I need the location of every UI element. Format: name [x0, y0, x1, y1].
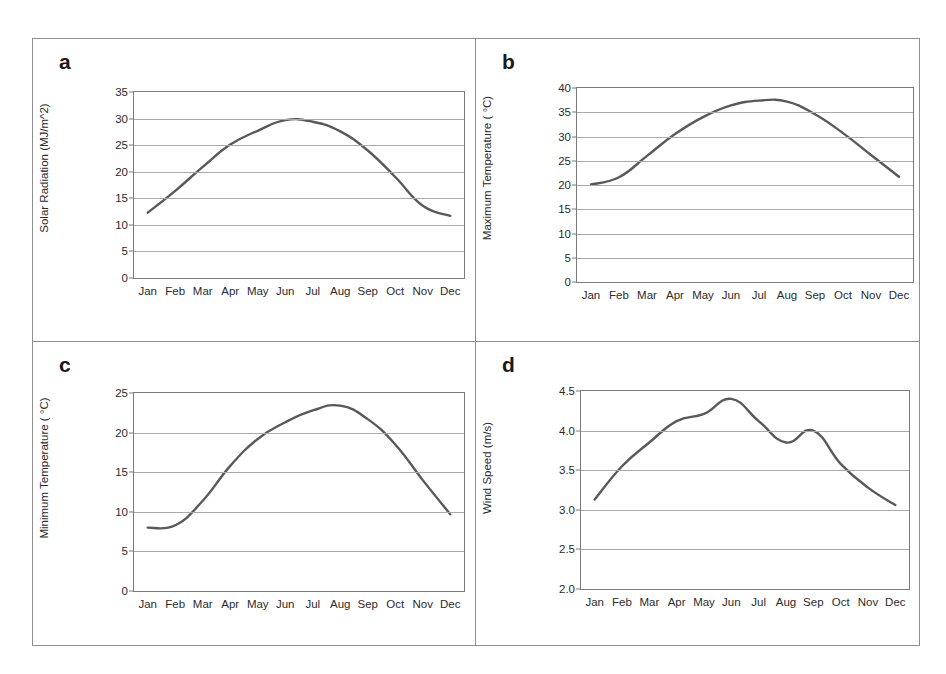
x-tick-label: Jul	[751, 596, 766, 608]
y-tick-label: 15	[115, 192, 128, 204]
y-tick-label: 5	[565, 252, 571, 264]
gridline	[581, 470, 909, 471]
plot-area-a: 05101520253035JanFebMarAprMayJunJulAugSe…	[133, 91, 465, 279]
y-tick-label: 25	[115, 387, 128, 399]
y-tick-label: 4.0	[559, 425, 575, 437]
y-tick-mark	[576, 391, 581, 392]
series-line-a	[134, 92, 464, 278]
y-tick-label: 2.5	[559, 543, 575, 555]
x-tick-label: Oct	[386, 598, 404, 610]
gridline	[134, 198, 464, 199]
x-tick-label: Dec	[889, 289, 909, 301]
y-tick-mark	[572, 88, 577, 89]
x-tick-label: Nov	[858, 596, 878, 608]
series-path-c	[148, 405, 450, 528]
y-tick-label: 5	[122, 545, 128, 557]
panel-a: a Solar Radiation (MJ/m^2) 0510152025303…	[33, 39, 476, 342]
y-tick-mark	[129, 251, 134, 252]
y-tick-mark	[572, 185, 577, 186]
x-tick-label: May	[692, 289, 714, 301]
gridline	[577, 258, 913, 259]
y-tick-label: 10	[115, 219, 128, 231]
x-tick-label: Apr	[666, 289, 684, 301]
x-tick-label: Mar	[193, 598, 213, 610]
y-tick-label: 4.5	[559, 385, 575, 397]
x-tick-label: Feb	[609, 289, 629, 301]
y-tick-label: 35	[115, 86, 128, 98]
y-tick-label: 0	[122, 585, 128, 597]
y-tick-mark	[572, 282, 577, 283]
y-tick-label: 25	[558, 155, 571, 167]
chart-c: Minimum Temperature ( °C) 0510152025JanF…	[33, 342, 475, 645]
y-tick-mark	[572, 209, 577, 210]
y-tick-label: 3.5	[559, 464, 575, 476]
y-tick-mark	[129, 118, 134, 119]
y-tick-label: 30	[115, 113, 128, 125]
figure-frame: a Solar Radiation (MJ/m^2) 0510152025303…	[32, 38, 920, 646]
y-tick-mark	[129, 591, 134, 592]
plot-area-d: 2.02.53.03.54.04.5JanFebMarAprMayJunJulA…	[580, 390, 910, 590]
x-tick-label: Dec	[440, 285, 460, 297]
gridline	[577, 185, 913, 186]
x-tick-label: Nov	[413, 598, 433, 610]
x-tick-label: Jun	[276, 285, 295, 297]
y-tick-label: 2.0	[559, 583, 575, 595]
y-tick-mark	[572, 257, 577, 258]
plot-area-b: 0510152025303540JanFebMarAprMayJunJulAug…	[576, 87, 914, 283]
x-tick-label: Aug	[777, 289, 797, 301]
gridline	[134, 172, 464, 173]
y-tick-label: 10	[558, 228, 571, 240]
x-tick-label: Sep	[358, 285, 378, 297]
x-tick-label: Dec	[885, 596, 905, 608]
gridline	[134, 472, 464, 473]
y-tick-mark	[572, 136, 577, 137]
x-tick-label: Oct	[386, 285, 404, 297]
series-path-a	[148, 119, 450, 216]
panel-c: c Minimum Temperature ( °C) 0510152025Ja…	[33, 342, 476, 645]
x-tick-label: Apr	[668, 596, 686, 608]
x-tick-label: Jun	[276, 598, 295, 610]
chart-a: Solar Radiation (MJ/m^2) 05101520253035J…	[33, 39, 475, 341]
gridline	[581, 510, 909, 511]
gridline	[577, 234, 913, 235]
x-tick-label: Nov	[413, 285, 433, 297]
gridline	[134, 512, 464, 513]
y-tick-label: 15	[558, 203, 571, 215]
panel-d: d Wind Speed (m/s) 2.02.53.03.54.04.5Jan…	[476, 342, 919, 645]
y-tick-mark	[129, 278, 134, 279]
y-tick-label: 25	[115, 139, 128, 151]
y-tick-label: 3.0	[559, 504, 575, 516]
x-tick-label: Jun	[722, 596, 741, 608]
x-tick-label: Feb	[165, 285, 185, 297]
x-tick-label: Jan	[138, 285, 157, 297]
x-tick-label: Nov	[861, 289, 881, 301]
y-tick-label: 0	[122, 272, 128, 284]
gridline	[134, 145, 464, 146]
series-line-d	[581, 391, 909, 589]
x-tick-label: May	[247, 285, 269, 297]
y-tick-mark	[572, 160, 577, 161]
series-path-d	[595, 399, 896, 505]
x-tick-label: Apr	[221, 598, 239, 610]
y-tick-mark	[576, 470, 581, 471]
x-tick-label: Jun	[722, 289, 741, 301]
panel-b: b Maximum Temperature ( °C) 051015202530…	[476, 39, 919, 342]
y-tick-mark	[129, 511, 134, 512]
gridline	[577, 209, 913, 210]
x-tick-label: Mar	[637, 289, 657, 301]
y-tick-mark	[129, 198, 134, 199]
x-tick-label: Jul	[305, 285, 320, 297]
gridline	[134, 433, 464, 434]
x-tick-label: Oct	[832, 596, 850, 608]
x-tick-label: Aug	[776, 596, 796, 608]
x-tick-label: Mar	[193, 285, 213, 297]
y-tick-mark	[129, 145, 134, 146]
x-tick-label: Feb	[165, 598, 185, 610]
y-tick-mark	[129, 92, 134, 93]
y-tick-mark	[129, 551, 134, 552]
y-tick-mark	[572, 233, 577, 234]
x-tick-label: Feb	[612, 596, 632, 608]
y-tick-label: 0	[565, 276, 571, 288]
y-tick-mark	[129, 472, 134, 473]
x-tick-label: Sep	[358, 598, 378, 610]
